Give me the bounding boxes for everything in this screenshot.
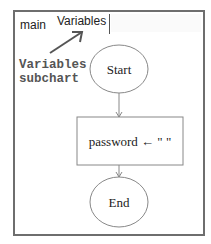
- annotation-arrow-icon: [50, 32, 82, 53]
- connector-assignment-to-end: [116, 165, 122, 177]
- start-node[interactable]: Start: [90, 45, 148, 93]
- assignment-node[interactable]: password ← " ": [77, 117, 183, 165]
- end-node-label: End: [109, 195, 130, 210]
- start-node-label: Start: [107, 62, 132, 77]
- end-node[interactable]: End: [90, 177, 148, 227]
- assignment-node-label: password ← " ": [89, 134, 171, 149]
- flowchart-canvas: Start password ← " " End: [0, 0, 211, 244]
- connector-start-to-assignment: [116, 93, 122, 117]
